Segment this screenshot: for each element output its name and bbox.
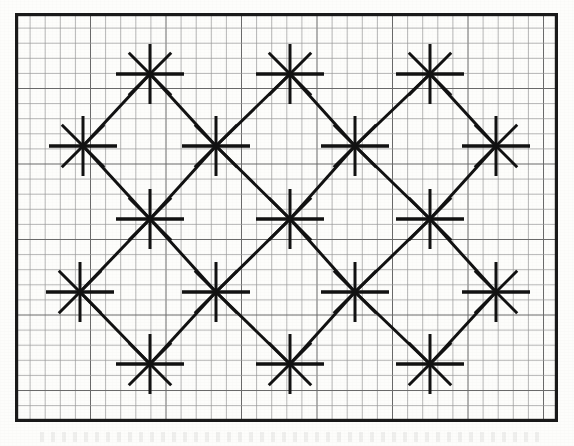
- lattice-star-diagram: [0, 0, 574, 446]
- figure-page: [0, 0, 574, 446]
